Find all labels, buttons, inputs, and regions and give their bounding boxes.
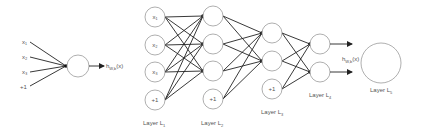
node-l2-3 <box>203 61 223 81</box>
node-l5-output <box>361 43 401 83</box>
input-label-bias: +1 <box>20 84 28 90</box>
layer-l2: +1 Layer L2 <box>201 6 224 128</box>
input-edge <box>30 42 66 66</box>
multilayer-network: x₁ x₂ x₃ +1 Layer L1 +1 Layer L2 +1 Laye… <box>143 6 401 128</box>
output-label: hW,b(x) <box>106 63 123 71</box>
node-label: x₃ <box>152 69 158 75</box>
node-l3-1 <box>262 23 282 43</box>
layer-l1: x₁ x₂ x₃ +1 Layer L1 <box>143 7 166 128</box>
network-output-label: hW,b(x) <box>342 56 359 64</box>
layer-l4: Layer L4 <box>309 34 352 100</box>
node-label: +1 <box>269 86 277 92</box>
node-l4-2 <box>310 62 330 82</box>
node-l3-2 <box>262 51 282 71</box>
layer-label-l2: Layer L2 <box>201 120 224 128</box>
edges-l1-l2 <box>165 14 205 100</box>
input-label-x3: x₃ <box>22 69 28 75</box>
layer-l3: +1 Layer L3 <box>261 23 284 117</box>
node-label: +1 <box>152 97 160 103</box>
layer-label-l3: Layer L3 <box>261 109 284 117</box>
layer-label-l4: Layer L4 <box>309 92 332 100</box>
node-label: +1 <box>210 96 218 102</box>
neural-network-diagram: x₁ x₂ x₃ +1 hW,b(x) <box>0 0 423 136</box>
edges-l2-l3 <box>223 16 264 99</box>
layer-label-l5: Layer L5 <box>370 87 393 95</box>
layer-l5: Layer L5 <box>361 43 401 95</box>
input-label-x2: x₂ <box>22 54 28 60</box>
layer-label-l1: Layer L1 <box>143 120 166 128</box>
node-label: x₂ <box>152 42 158 48</box>
single-neuron: x₁ x₂ x₃ +1 hW,b(x) <box>20 39 123 90</box>
edges-l3-l4 <box>282 33 312 89</box>
node-l2-1 <box>203 6 223 26</box>
node-label: x₁ <box>152 14 157 20</box>
node-l4-1 <box>310 34 330 54</box>
input-edge <box>30 57 66 66</box>
neuron-node <box>67 55 89 77</box>
node-l2-2 <box>203 34 223 54</box>
input-label-x1: x₁ <box>22 39 27 45</box>
